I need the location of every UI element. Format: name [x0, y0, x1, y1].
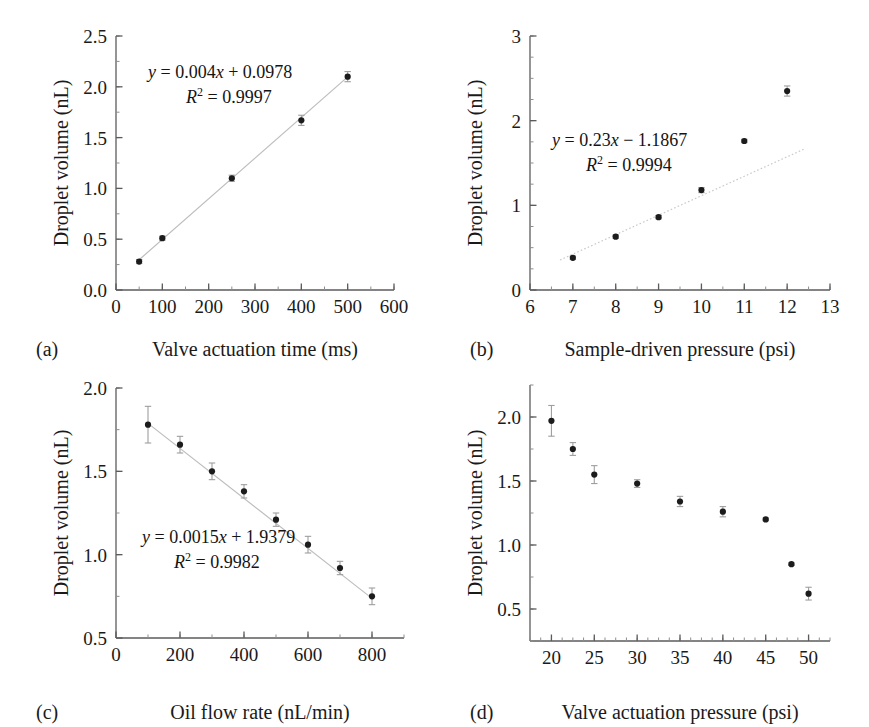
chart-panel-b: 6789101112130123y = 0.23x − 1.1867R2 = 0… [434, 0, 869, 364]
data-point [369, 593, 375, 599]
x-tick-label: 6 [525, 296, 535, 317]
y-tick-label: 1.0 [83, 545, 107, 566]
data-point [677, 498, 683, 504]
r-squared-text: R2 = 0.9997 [185, 85, 272, 107]
x-axis-title: Sample-driven pressure (psi) [564, 338, 795, 361]
data-point [784, 88, 790, 94]
equation-annotation: y = 0.0015x + 1.9379R2 = 0.9982 [140, 527, 295, 572]
data-point [634, 480, 640, 486]
data-point [570, 255, 576, 261]
data-point [613, 234, 619, 240]
y-tick-label: 1.5 [497, 471, 521, 492]
axes-panel-b: 6789101112130123 [512, 26, 840, 317]
y-tick-label: 0 [512, 280, 522, 301]
x-tick-label: 20 [542, 647, 561, 668]
data-point [345, 74, 351, 80]
equation-annotation: y = 0.23x − 1.1867R2 = 0.9994 [550, 130, 687, 175]
x-tick-label: 10 [692, 296, 711, 317]
y-tick-label: 2.0 [83, 77, 107, 98]
data-point [159, 235, 165, 241]
x-tick-label: 35 [671, 647, 690, 668]
x-tick-label: 600 [294, 644, 323, 665]
x-axis-title: Oil flow rate (nL/min) [170, 701, 349, 724]
x-tick-label: 800 [358, 644, 387, 665]
y-tick-label: 2 [512, 111, 522, 132]
y-tick-label: 2.0 [497, 407, 521, 428]
data-point [337, 565, 343, 571]
data-point [570, 446, 576, 452]
data-point [720, 509, 726, 515]
equation-text: y = 0.0015x + 1.9379 [140, 527, 295, 547]
x-tick-label: 30 [628, 647, 647, 668]
y-tick-label: 2.5 [83, 26, 107, 47]
y-tick-label: 1.0 [497, 535, 521, 556]
equation-annotation: y = 0.004x + 0.0978R2 = 0.9997 [146, 62, 292, 107]
trendline [148, 423, 372, 598]
chart-panel-d: 202530354045500.51.01.52.0Valve actuatio… [434, 363, 869, 727]
y-axis-title: Droplet volume (nL) [50, 430, 73, 597]
x-tick-label: 600 [380, 296, 409, 317]
data-point [136, 258, 142, 264]
axes-panel-d: 202530354045500.51.01.52.0 [497, 385, 830, 668]
x-axis-title: Valve actuation time (ms) [152, 338, 358, 361]
data-point [241, 488, 247, 494]
x-tick-label: 13 [821, 296, 840, 317]
y-tick-label: 1.5 [83, 128, 107, 149]
x-axis-title: Valve actuation pressure (psi) [561, 701, 798, 724]
x-tick-label: 40 [713, 647, 732, 668]
y-axis-title: Droplet volume (nL) [50, 80, 73, 247]
x-tick-label: 100 [148, 296, 177, 317]
x-tick-label: 400 [230, 644, 259, 665]
r-squared-text: R2 = 0.9994 [585, 153, 672, 175]
y-tick-label: 1.0 [83, 178, 107, 199]
x-tick-label: 400 [287, 296, 316, 317]
data-point [763, 516, 769, 522]
data-point [548, 418, 554, 424]
r-squared-text: R2 = 0.9982 [173, 550, 260, 572]
x-tick-label: 0 [111, 644, 121, 665]
x-tick-label: 11 [735, 296, 753, 317]
x-tick-label: 0 [111, 296, 121, 317]
data-point [741, 138, 747, 144]
data-point [591, 472, 597, 478]
figure-four-panel-scatter: 01002003004005006000.00.51.01.52.02.5y =… [0, 0, 869, 727]
data-point [177, 442, 183, 448]
equation-text: y = 0.23x − 1.1867 [550, 130, 687, 150]
chart-panel-a: 01002003004005006000.00.51.01.52.02.5y =… [0, 0, 435, 364]
x-tick-label: 200 [194, 296, 223, 317]
chart-panel-c: 02004006008000.51.01.52.0y = 0.0015x + 1… [0, 363, 435, 727]
x-tick-label: 8 [611, 296, 621, 317]
x-tick-label: 500 [333, 296, 362, 317]
x-tick-label: 7 [568, 296, 578, 317]
data-point [698, 187, 704, 193]
data-point [655, 214, 661, 220]
data-point [298, 117, 304, 123]
panel-letter: (a) [36, 338, 58, 361]
y-tick-label: 2.0 [83, 378, 107, 399]
x-tick-label: 12 [778, 296, 797, 317]
data-point [788, 561, 794, 567]
y-axis-title: Droplet volume (nL) [464, 430, 487, 597]
x-tick-label: 200 [166, 644, 195, 665]
data-point [229, 175, 235, 181]
x-tick-label: 9 [654, 296, 664, 317]
data-point [805, 591, 811, 597]
data-point [209, 468, 215, 474]
panel-letter: (b) [470, 338, 493, 361]
y-tick-label: 1.5 [83, 461, 107, 482]
y-tick-label: 0.5 [83, 628, 107, 649]
data-point [145, 422, 151, 428]
data-point [305, 542, 311, 548]
x-tick-label: 300 [241, 296, 270, 317]
y-tick-label: 0.5 [83, 229, 107, 250]
axes-panel-c: 02004006008000.51.01.52.0 [83, 378, 404, 665]
y-tick-label: 0.5 [497, 599, 521, 620]
panel-letter: (d) [470, 701, 493, 724]
data-series [548, 405, 812, 600]
x-tick-label: 50 [799, 647, 818, 668]
y-tick-label: 0.0 [83, 280, 107, 301]
equation-text: y = 0.004x + 0.0978 [146, 62, 292, 82]
x-tick-label: 45 [756, 647, 775, 668]
data-series [145, 406, 375, 604]
x-tick-label: 25 [585, 647, 604, 668]
